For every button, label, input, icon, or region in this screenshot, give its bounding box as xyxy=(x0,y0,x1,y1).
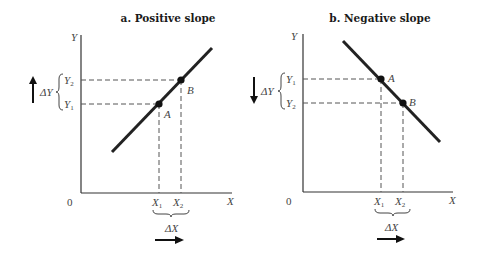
panel-b-y-tick-upper: Y1 xyxy=(286,73,296,87)
panel-b-line xyxy=(343,41,440,142)
panel-a-y-tick-lower: Y1 xyxy=(64,98,74,112)
panel-negative-slope: b. Negative slope Y X 0 A B Y1 Y2 ΔY X1 … xyxy=(250,12,457,243)
panel-a-point-a xyxy=(155,100,162,107)
panel-a-point-b xyxy=(177,76,184,83)
panel-a-y-tick-upper: Y2 xyxy=(64,74,74,88)
panel-positive-slope: a. Positive slope Y X 0 A B Y2 Y1 ΔY X1 … xyxy=(29,12,235,244)
panel-b-title: b. Negative slope xyxy=(329,12,431,24)
panel-b-x-tick-1: X1 xyxy=(373,195,385,209)
slope-diagram: a. Positive slope Y X 0 A B Y2 Y1 ΔY X1 … xyxy=(0,0,478,255)
panel-b-y-tick-lower: Y2 xyxy=(286,97,296,111)
panel-b-x-brace xyxy=(375,209,410,216)
panel-a-point-a-label: A xyxy=(163,108,171,120)
arrow-down-icon xyxy=(250,96,258,104)
panel-a-x-tick-2: X2 xyxy=(172,196,184,210)
panel-b-x-tick-2: X2 xyxy=(394,195,406,209)
panel-a-y-axis-label: Y xyxy=(71,31,79,43)
panel-a-y-brace xyxy=(56,74,63,110)
panel-a-origin-label: 0 xyxy=(67,196,73,208)
panel-b-origin-label: 0 xyxy=(286,195,292,207)
arrow-right-icon xyxy=(396,235,405,243)
panel-a-title: a. Positive slope xyxy=(121,12,216,24)
panel-a-x-axis-label: X xyxy=(226,195,235,207)
arrow-up-icon xyxy=(29,76,37,84)
panel-a-x-tick-1: X1 xyxy=(151,196,163,210)
arrow-right-icon xyxy=(175,236,184,244)
panel-b-point-a-label: A xyxy=(387,72,395,84)
panel-b-point-b-label: B xyxy=(409,96,416,108)
panel-b-x-axis-label: X xyxy=(448,194,457,206)
panel-a-line xyxy=(112,48,212,152)
panel-b-point-a xyxy=(377,75,384,82)
panel-b-point-b xyxy=(399,99,406,106)
panel-b-delta-x-label: ΔX xyxy=(384,221,399,233)
panel-b-y-axis-label: Y xyxy=(291,30,299,42)
panel-a-x-brace xyxy=(153,210,189,217)
panel-a-delta-y-label: ΔY xyxy=(39,86,54,98)
panel-b-delta-y-label: ΔY xyxy=(260,85,275,97)
panel-a-delta-x-label: ΔX xyxy=(164,222,179,234)
panel-a-point-b-label: B xyxy=(187,84,194,96)
panel-b-y-brace xyxy=(278,73,285,109)
